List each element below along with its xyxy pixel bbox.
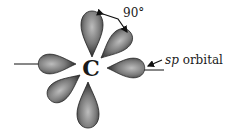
orbital-label-text: orbital [179,53,223,67]
lobe-right [107,58,145,78]
sp-orbital-diagram: C 90° sp orbital [0,0,227,134]
angle-label: 90° [123,6,144,20]
lobe-top [81,11,103,57]
orbital-pointer-arrow-icon [148,60,162,66]
lobe-left [38,54,76,74]
carbon-atom-label: C [82,55,100,81]
orbital-label-sp: sp [165,53,179,67]
lobe-bottom [77,82,99,128]
orbital-label: sp orbital [165,53,223,67]
